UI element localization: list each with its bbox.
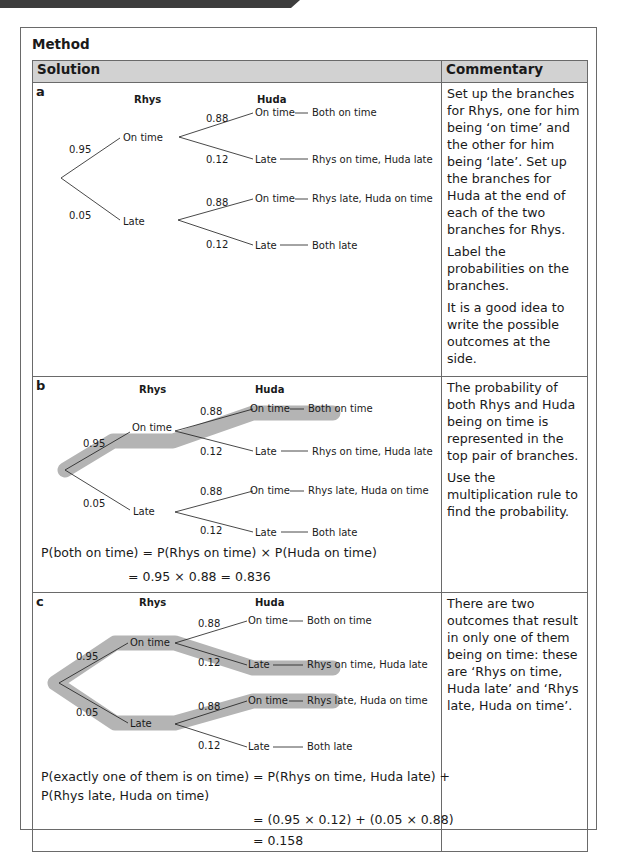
outcome-rhys-on-huda-late: Rhys on time, Huda late (312, 154, 433, 165)
prob-huda-on-time-1: 0.88 (198, 618, 220, 629)
huda-on-time-node-1: On time (248, 615, 288, 626)
rhys-column-label: Rhys (134, 94, 161, 105)
huda-late-node-2: Late (255, 527, 277, 538)
outcome-rhys-on-huda-late: Rhys on time, Huda late (312, 446, 433, 457)
prob-rhys-on-time: 0.95 (76, 651, 98, 662)
prob-huda-on-time-1: 0.88 (200, 406, 222, 417)
huda-late-node-2: Late (255, 240, 277, 251)
prob-rhys-on-time: 0.95 (69, 144, 91, 155)
huda-late-node-1: Late (248, 659, 270, 670)
outcome-both-on-time: Both on time (312, 107, 377, 118)
outcome-rhys-on-huda-late: Rhys on time, Huda late (307, 659, 428, 670)
table-row-c: c (33, 593, 588, 852)
table-header-row: Solution Commentary (33, 61, 588, 83)
commentary-header: Commentary (442, 61, 588, 83)
huda-on-time-node-2: On time (248, 695, 288, 706)
outcome-rhys-late-huda-on: Rhys late, Huda on time (308, 485, 429, 496)
commentary-a-para-3: It is a good idea to write the possible … (447, 299, 583, 367)
commentary-a-para-2: Label the probabilities on the branches. (447, 243, 583, 294)
equation-c-line-4: = 0.158 (253, 833, 303, 848)
solution-cell-b: b (33, 377, 442, 593)
huda-late-node-1: Late (255, 154, 277, 165)
equation-c-line-1: P(exactly one of them is on time) = P(Rh… (41, 769, 450, 784)
equation-c-line-3: = (0.95 × 0.12) + (0.05 × 0.88) (253, 812, 454, 827)
huda-on-time-node-1: On time (250, 403, 290, 414)
rhys-on-time-node: On time (130, 637, 170, 648)
outcome-rhys-late-huda-on: Rhys late, Huda on time (312, 193, 433, 204)
huda-on-time-node-2: On time (250, 485, 290, 496)
commentary-b-para-1: The probability of both Rhys and Huda be… (447, 379, 583, 464)
solution-header: Solution (33, 61, 442, 83)
commentary-cell-a: Set up the branches for Rhys, one for hi… (442, 83, 588, 377)
huda-column-label: Huda (255, 384, 284, 395)
method-title: Method (32, 36, 90, 52)
rhys-column-label: Rhys (139, 384, 166, 395)
prob-huda-on-time-1: 0.88 (206, 113, 228, 124)
equation-b-line-2: = 0.95 × 0.88 = 0.836 (128, 569, 271, 584)
rhys-late-node: Late (123, 216, 145, 227)
rhys-late-node: Late (130, 718, 152, 729)
table-row-a: a Rhys Huda (33, 83, 588, 377)
huda-on-time-node-1: On time (255, 107, 295, 118)
outcome-both-on-time: Both on time (307, 615, 372, 626)
prob-huda-late-1: 0.12 (206, 154, 228, 165)
huda-late-node-1: Late (255, 446, 277, 457)
huda-column-label: Huda (257, 94, 286, 105)
huda-late-node-2: Late (248, 741, 270, 752)
equation-b-line-1: P(both on time) = P(Rhys on time) × P(Hu… (41, 545, 377, 560)
huda-column-label: Huda (255, 597, 284, 608)
method-table: Solution Commentary a (32, 60, 588, 852)
commentary-b-para-2: Use the multiplication rule to find the … (447, 469, 583, 520)
tree-diagram-a: Rhys Huda On time Late 0.95 0.05 0.88 0.… (33, 83, 442, 338)
prob-rhys-on-time: 0.95 (83, 438, 105, 449)
outcome-both-late: Both late (312, 527, 357, 538)
prob-rhys-late: 0.05 (76, 707, 98, 718)
prob-huda-late-2: 0.12 (200, 525, 222, 536)
top-banner-bar (0, 0, 300, 8)
prob-huda-on-time-2: 0.88 (198, 701, 220, 712)
outcome-both-late: Both late (307, 741, 352, 752)
commentary-cell-c: There are two outcomes that result in on… (442, 593, 588, 852)
outcome-rhys-late-huda-on: Rhys late, Huda on time (307, 695, 428, 706)
rhys-on-time-node: On time (123, 132, 163, 143)
prob-rhys-late: 0.05 (69, 210, 91, 221)
prob-huda-on-time-2: 0.88 (206, 197, 228, 208)
prob-huda-late-2: 0.12 (206, 239, 228, 250)
table-row-b: b (33, 377, 588, 593)
commentary-a-para-1: Set up the branches for Rhys, one for hi… (447, 85, 583, 238)
prob-huda-on-time-2: 0.88 (200, 486, 222, 497)
solution-cell-c: c (33, 593, 442, 852)
solution-cell-a: a Rhys Huda (33, 83, 442, 377)
huda-on-time-node-2: On time (255, 193, 295, 204)
prob-huda-late-1: 0.12 (200, 446, 222, 457)
rhys-on-time-node: On time (132, 422, 172, 433)
prob-rhys-late: 0.05 (83, 498, 105, 509)
commentary-cell-b: The probability of both Rhys and Huda be… (442, 377, 588, 593)
prob-huda-late-1: 0.12 (198, 657, 220, 668)
commentary-c-para-1: There are two outcomes that result in on… (447, 595, 583, 714)
equation-c-line-2: P(Rhys late, Huda on time) (41, 788, 209, 803)
rhys-column-label: Rhys (139, 597, 166, 608)
prob-huda-late-2: 0.12 (198, 740, 220, 751)
outcome-both-late: Both late (312, 240, 357, 251)
outcome-both-on-time: Both on time (308, 403, 373, 414)
rhys-late-node: Late (133, 506, 155, 517)
